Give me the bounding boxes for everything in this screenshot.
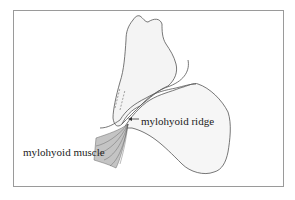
label-mylohyoid-ridge: mylohyoid ridge bbox=[141, 116, 214, 127]
mandible-cross-section-illustration bbox=[0, 0, 295, 200]
label-mylohyoid-muscle: mylohyoid muscle bbox=[23, 147, 105, 158]
